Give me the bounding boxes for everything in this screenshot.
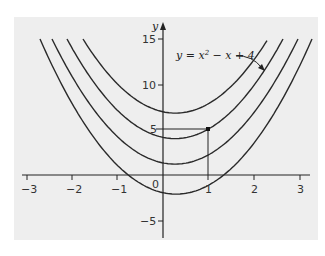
y-ticks — [158, 39, 163, 221]
chart-svg: −3 −2 −1 0 1 2 3 15 10 5 −5 y y = x2 − x… — [0, 0, 325, 256]
x-tick-label: −2 — [66, 183, 82, 196]
x-tick-label: −3 — [21, 183, 37, 196]
y-tick-label: −5 — [140, 215, 156, 228]
parabola-curves — [40, 39, 312, 194]
equation-label: y = x2 − x + 4 — [175, 49, 255, 62]
x-tick-label: −1 — [111, 183, 127, 196]
x-tick-label: 3 — [297, 183, 304, 196]
point-marker — [206, 127, 210, 131]
x-tick-label: 2 — [251, 183, 258, 196]
x-tick-label: 1 — [205, 183, 212, 196]
y-tick-label: 15 — [142, 33, 156, 46]
origin-label: 0 — [152, 178, 159, 191]
y-axis-arrow-icon — [160, 22, 166, 30]
parabola-3 — [52, 39, 298, 164]
y-tick-label: 5 — [150, 123, 157, 136]
y-axis-label: y — [151, 20, 159, 33]
y-tick-label: 10 — [142, 79, 156, 92]
